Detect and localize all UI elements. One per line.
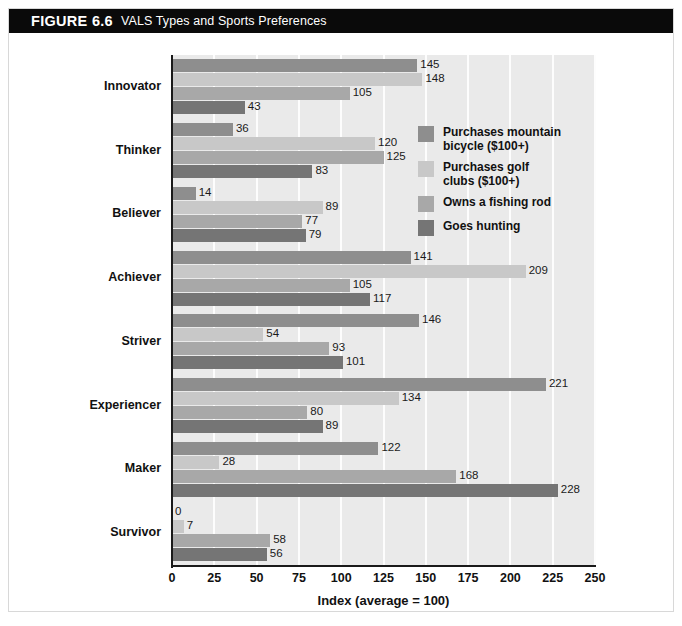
bar-value-label: 145 bbox=[417, 58, 439, 71]
bar-row: 56 bbox=[172, 548, 595, 561]
bar-row: 141 bbox=[172, 251, 595, 264]
category-label-innovator: Innovator bbox=[1, 79, 161, 93]
x-axis-tick-labels: 0255075100125150175200225250 bbox=[0, 571, 682, 591]
x-tick-0: 0 bbox=[169, 571, 176, 585]
legend-label: Purchases mountain bicycle ($100+) bbox=[443, 125, 561, 153]
legend-item-0[interactable]: Purchases mountain bicycle ($100+) bbox=[418, 125, 598, 153]
bar-survivor-series1[interactable] bbox=[172, 520, 184, 533]
category-label-maker: Maker bbox=[1, 461, 161, 475]
bar-maker-series2[interactable] bbox=[172, 470, 456, 483]
bar-value-label: 146 bbox=[419, 313, 441, 326]
bar-value-label: 43 bbox=[245, 100, 261, 113]
bar-value-label: 0 bbox=[172, 505, 181, 518]
bar-value-label: 58 bbox=[270, 533, 286, 546]
x-tick-125: 125 bbox=[373, 571, 394, 585]
category-label-achiever: Achiever bbox=[1, 270, 161, 284]
x-tick-200: 200 bbox=[500, 571, 521, 585]
bar-value-label: 7 bbox=[184, 519, 193, 532]
bar-thinker-series1[interactable] bbox=[172, 137, 375, 150]
bar-value-label: 122 bbox=[378, 441, 400, 454]
bar-achiever-series3[interactable] bbox=[172, 293, 370, 306]
x-tick-75: 75 bbox=[292, 571, 306, 585]
legend-item-1[interactable]: Purchases golf clubs ($100+) bbox=[418, 160, 598, 188]
bar-row: 101 bbox=[172, 356, 595, 369]
bar-value-label: 120 bbox=[375, 136, 397, 149]
bar-row: 148 bbox=[172, 73, 595, 86]
bar-value-label: 93 bbox=[329, 341, 345, 354]
bar-row: 168 bbox=[172, 470, 595, 483]
legend-swatch-icon bbox=[418, 196, 434, 212]
bar-experiencer-series0[interactable] bbox=[172, 378, 546, 391]
bar-value-label: 89 bbox=[323, 419, 339, 432]
bar-experiencer-series2[interactable] bbox=[172, 406, 307, 419]
bar-row: 43 bbox=[172, 101, 595, 114]
bar-row: 221 bbox=[172, 378, 595, 391]
bar-striver-series3[interactable] bbox=[172, 356, 343, 369]
bar-innovator-series0[interactable] bbox=[172, 59, 417, 72]
figure-title-bar: FIGURE 6.6 VALS Types and Sports Prefere… bbox=[9, 9, 673, 33]
bar-achiever-series1[interactable] bbox=[172, 265, 526, 278]
bar-value-label: 79 bbox=[306, 228, 322, 241]
bar-row: 58 bbox=[172, 534, 595, 547]
legend-swatch-icon bbox=[418, 126, 434, 142]
bar-innovator-series2[interactable] bbox=[172, 87, 350, 100]
bar-group-innovator: 14514810543 bbox=[172, 59, 595, 115]
x-tick-225: 225 bbox=[542, 571, 563, 585]
bar-group-experiencer: 2211348089 bbox=[172, 378, 595, 434]
category-label-experiencer: Experiencer bbox=[1, 398, 161, 412]
chart-legend: Purchases mountain bicycle ($100+)Purcha… bbox=[418, 125, 598, 243]
bar-innovator-series3[interactable] bbox=[172, 101, 245, 114]
bar-believer-series0[interactable] bbox=[172, 187, 196, 200]
bar-value-label: 14 bbox=[196, 186, 212, 199]
bar-maker-series1[interactable] bbox=[172, 456, 219, 469]
bar-striver-series0[interactable] bbox=[172, 314, 419, 327]
bar-value-label: 36 bbox=[233, 122, 249, 135]
bar-experiencer-series1[interactable] bbox=[172, 392, 399, 405]
bar-survivor-series2[interactable] bbox=[172, 534, 270, 547]
bar-believer-series3[interactable] bbox=[172, 229, 306, 242]
bar-row: 105 bbox=[172, 87, 595, 100]
bar-believer-series2[interactable] bbox=[172, 215, 302, 228]
bar-striver-series1[interactable] bbox=[172, 328, 263, 341]
bar-row: 117 bbox=[172, 293, 595, 306]
bar-row: 80 bbox=[172, 406, 595, 419]
bar-innovator-series1[interactable] bbox=[172, 73, 422, 86]
bar-maker-series3[interactable] bbox=[172, 484, 558, 497]
bar-group-striver: 1465493101 bbox=[172, 314, 595, 370]
x-tick-25: 25 bbox=[207, 571, 221, 585]
bar-achiever-series2[interactable] bbox=[172, 279, 350, 292]
bar-row: 89 bbox=[172, 420, 595, 433]
bar-value-label: 54 bbox=[263, 327, 279, 340]
bar-value-label: 105 bbox=[350, 86, 372, 99]
bar-value-label: 77 bbox=[302, 214, 318, 227]
bar-achiever-series0[interactable] bbox=[172, 251, 411, 264]
legend-label: Goes hunting bbox=[443, 219, 520, 233]
bar-believer-series1[interactable] bbox=[172, 201, 323, 214]
category-label-striver: Striver bbox=[1, 334, 161, 348]
bar-thinker-series2[interactable] bbox=[172, 151, 384, 164]
legend-label: Purchases golf clubs ($100+) bbox=[443, 160, 529, 188]
bar-thinker-series3[interactable] bbox=[172, 165, 312, 178]
legend-swatch-icon bbox=[418, 161, 434, 177]
bar-group-survivor: 075856 bbox=[172, 506, 595, 562]
x-tick-250: 250 bbox=[585, 571, 606, 585]
bar-experiencer-series3[interactable] bbox=[172, 420, 323, 433]
bar-row: 228 bbox=[172, 484, 595, 497]
bar-value-label: 168 bbox=[456, 469, 478, 482]
legend-item-3[interactable]: Goes hunting bbox=[418, 219, 598, 236]
bar-row: 93 bbox=[172, 342, 595, 355]
category-label-believer: Believer bbox=[1, 206, 161, 220]
legend-item-2[interactable]: Owns a fishing rod bbox=[418, 195, 598, 212]
bar-maker-series0[interactable] bbox=[172, 442, 378, 455]
bar-value-label: 221 bbox=[546, 377, 568, 390]
bar-thinker-series0[interactable] bbox=[172, 123, 233, 136]
bar-row: 209 bbox=[172, 265, 595, 278]
bar-value-label: 134 bbox=[399, 391, 421, 404]
bar-survivor-series3[interactable] bbox=[172, 548, 267, 561]
bar-value-label: 56 bbox=[267, 547, 283, 560]
bar-row: 0 bbox=[172, 506, 595, 519]
bar-striver-series2[interactable] bbox=[172, 342, 329, 355]
category-axis-labels: InnovatorThinkerBelieverAchieverStriverE… bbox=[0, 55, 171, 565]
x-tick-50: 50 bbox=[250, 571, 264, 585]
bar-value-label: 83 bbox=[312, 164, 328, 177]
